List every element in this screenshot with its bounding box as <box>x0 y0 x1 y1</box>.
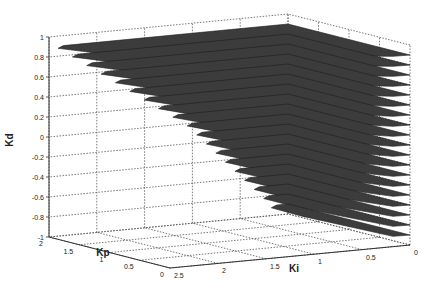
tick-label: 1 <box>40 34 44 41</box>
surface-plot-3d: 10.80.60.40.20-0.2-0.4-0.6-0.8-100.511.5… <box>0 0 434 291</box>
tick-label: 2 <box>39 240 43 247</box>
tick-label: 0.5 <box>366 254 376 261</box>
surface <box>58 24 410 236</box>
tick-label: 1.5 <box>64 248 74 255</box>
tick-label: -0.4 <box>32 174 44 181</box>
tick-label: 0.5 <box>124 263 134 270</box>
tick-label: 0 <box>414 249 418 256</box>
tick-label: 2.5 <box>174 272 184 279</box>
tick-label: 2 <box>222 267 226 274</box>
tick-label: 0 <box>40 134 44 141</box>
x-axis-label: Ki <box>289 263 299 274</box>
tick-label: 0.4 <box>34 94 44 101</box>
tick-label: 1.5 <box>270 263 280 270</box>
z-axis-label: Kd <box>4 133 15 146</box>
tick-label: 0.6 <box>34 74 44 81</box>
tick-label: -0.6 <box>32 194 44 201</box>
tick-label: -0.8 <box>32 214 44 221</box>
tick-label: -0.2 <box>32 154 44 161</box>
tick-label: 0.8 <box>34 54 44 61</box>
tick-label: 1 <box>318 258 322 265</box>
y-axis-label: Kp <box>96 247 109 258</box>
tick-label: 0 <box>160 271 164 278</box>
tick-label: 0.2 <box>34 114 44 121</box>
